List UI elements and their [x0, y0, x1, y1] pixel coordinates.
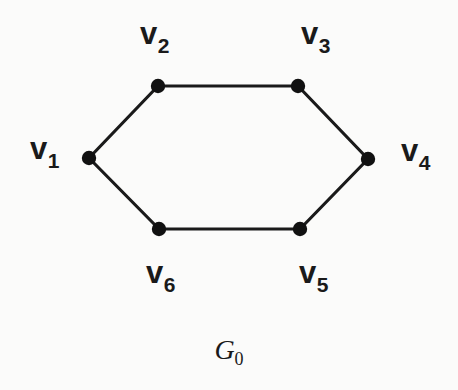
- node-v6: [152, 222, 166, 236]
- node-label-v3-letter: v: [301, 16, 318, 51]
- node-label-v4-subscript: 4: [419, 151, 430, 174]
- edge-v4-v5: [300, 159, 368, 229]
- node-label-v6-subscript: 6: [164, 273, 175, 296]
- node-v3: [291, 79, 305, 93]
- node-label-v5-letter: v: [299, 255, 316, 290]
- node-label-v3: v3: [301, 18, 329, 49]
- edge-v3-v4: [298, 86, 368, 159]
- node-label-v3-subscript: 3: [319, 34, 330, 57]
- edge-v6-v1: [89, 158, 159, 229]
- figure-caption: G0: [0, 336, 458, 364]
- node-label-v6: v6: [146, 257, 174, 288]
- node-label-v6-letter: v: [146, 255, 163, 290]
- node-label-v4-letter: v: [401, 133, 418, 168]
- node-v1: [82, 151, 96, 165]
- node-label-v5-subscript: 5: [317, 273, 328, 296]
- node-v5: [293, 222, 307, 236]
- graph-canvas: [0, 0, 458, 390]
- graph-edges: [89, 86, 368, 229]
- figure-caption-subscript: 0: [235, 349, 244, 369]
- node-v4: [361, 152, 375, 166]
- node-label-v2: v2: [140, 18, 168, 49]
- figure-caption-letter: G: [214, 334, 234, 365]
- node-v2: [151, 79, 165, 93]
- edge-v1-v2: [89, 86, 158, 158]
- node-label-v4: v4: [401, 135, 429, 166]
- node-label-v1: v1: [30, 133, 58, 164]
- node-label-v5: v5: [299, 257, 327, 288]
- node-label-v1-letter: v: [30, 131, 47, 166]
- figure-container: v1 v2 v3 v4 v5 v6 G0: [0, 0, 458, 390]
- node-label-v2-subscript: 2: [158, 34, 169, 57]
- graph-nodes: [82, 79, 375, 236]
- node-label-v2-letter: v: [140, 16, 157, 51]
- node-label-v1-subscript: 1: [48, 149, 59, 172]
